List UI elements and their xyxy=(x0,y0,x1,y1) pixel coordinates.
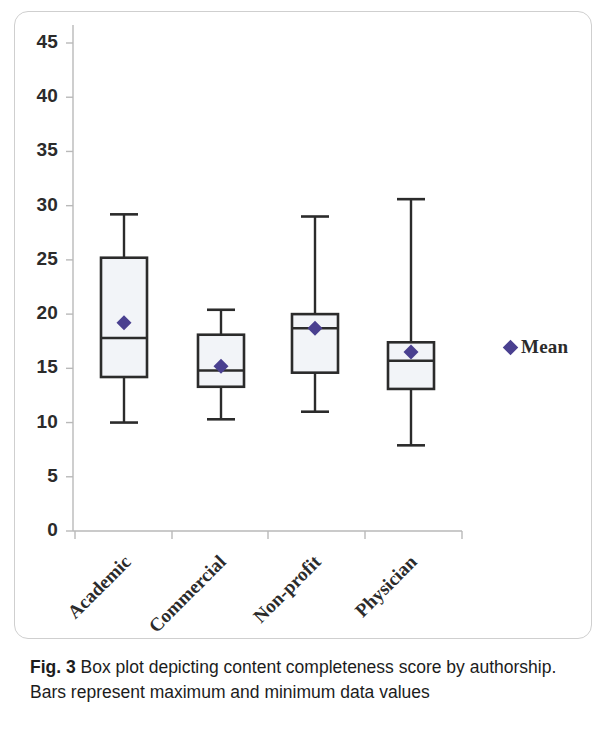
caption-figure-number: Fig. 3 xyxy=(30,657,76,677)
y-axis-tick-label: 35 xyxy=(18,139,58,161)
y-axis-tick-label: 30 xyxy=(18,194,58,216)
y-axis-tick-label: 10 xyxy=(18,411,58,433)
box-plot-commercial xyxy=(198,310,244,420)
caption-sentence-1: Box plot depicting content completeness … xyxy=(81,657,557,677)
legend-label-mean: Mean xyxy=(521,336,568,358)
y-axis-tick-label: 0 xyxy=(18,519,58,541)
box-plot-non-profit xyxy=(292,217,338,412)
y-axis-tick-label: 5 xyxy=(18,465,58,487)
box-plot-chart xyxy=(0,0,602,640)
boxes-layer xyxy=(101,199,434,445)
box-plot-physician xyxy=(388,199,434,445)
plot-svg xyxy=(0,0,602,640)
diamond-icon xyxy=(503,339,519,355)
caption-sentence-2: Bars represent maximum and minimum data … xyxy=(30,680,575,705)
box-plot-academic xyxy=(101,214,147,422)
y-axis-tick-label: 45 xyxy=(18,31,58,53)
y-axis-tick-label: 40 xyxy=(18,85,58,107)
y-axis-tick-label: 15 xyxy=(18,356,58,378)
y-axis-tick-label: 25 xyxy=(18,248,58,270)
legend: Mean xyxy=(505,336,568,358)
y-axis-tick-label: 20 xyxy=(18,302,58,324)
figure-caption: Fig. 3 Box plot depicting content comple… xyxy=(30,655,575,706)
